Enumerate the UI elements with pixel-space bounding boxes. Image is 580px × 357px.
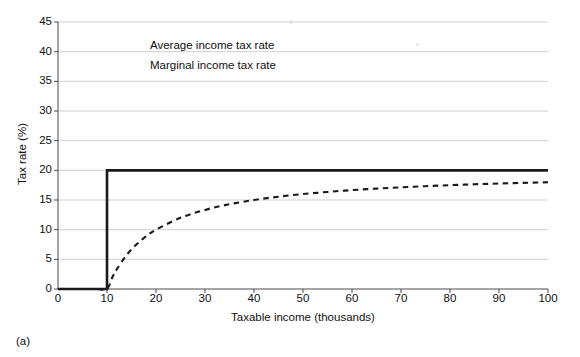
legend-label-marginal: Marginal income tax rate: [150, 58, 276, 72]
x-tick-label: 70: [381, 292, 421, 304]
x-tick-label: 80: [430, 292, 470, 304]
x-tick-label: 40: [234, 292, 274, 304]
series-average-income-tax-rate: [58, 182, 548, 290]
x-tick-label: 0: [38, 292, 78, 304]
chart-legend: Average income tax rate Marginal income …: [74, 36, 304, 76]
scan-speck: [289, 20, 293, 24]
x-tick-label: 50: [283, 292, 323, 304]
x-tick-label: 90: [479, 292, 519, 304]
scan-speck: [416, 43, 419, 46]
legend-label-average: Average income tax rate: [150, 38, 274, 52]
legend-item-marginal: Marginal income tax rate: [74, 56, 304, 76]
x-tick-label: 100: [528, 292, 568, 304]
figure-container: 051015202530354045 Tax rate (%) 01020304…: [0, 0, 580, 357]
x-tick-label: 10: [87, 292, 127, 304]
x-axis-title: Taxable income (thousands): [58, 311, 548, 323]
figure-caption: (a): [16, 335, 30, 347]
x-tick-label: 60: [332, 292, 372, 304]
legend-item-average: Average income tax rate: [74, 36, 304, 56]
y-axis-tick-marks: [54, 22, 58, 289]
x-tick-label: 20: [136, 292, 176, 304]
x-tick-label: 30: [185, 292, 225, 304]
